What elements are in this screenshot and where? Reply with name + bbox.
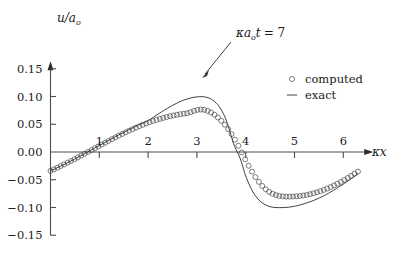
x-tick-label: 3 <box>193 134 200 148</box>
annotation-arrow-line <box>205 42 231 74</box>
legend: computed exact <box>287 72 363 102</box>
data-point-marker <box>161 115 166 120</box>
legend-label-exact: exact <box>305 88 337 102</box>
data-point-marker <box>174 112 179 117</box>
data-point-marker <box>222 122 227 127</box>
annotation-equals: = 7 <box>264 26 286 40</box>
y-tick-label: 0.15 <box>17 62 43 76</box>
y-tick-label: −0.05 <box>7 173 42 187</box>
data-point-marker <box>171 113 176 118</box>
data-point-marker <box>263 187 268 192</box>
annotation-group: κaot= 7 <box>202 26 285 78</box>
annotation-a: a <box>244 26 251 40</box>
data-point-marker <box>236 143 241 148</box>
data-point-marker <box>314 190 319 195</box>
data-point-marker <box>232 137 237 142</box>
x-tick-label: 6 <box>340 134 347 148</box>
data-point-marker <box>301 193 306 198</box>
legend-marker-computed-icon <box>289 76 294 81</box>
annotation-t: t <box>256 26 261 40</box>
x-axis-label-text: κx <box>371 145 387 159</box>
data-point-marker <box>150 119 155 124</box>
data-point-marker <box>256 179 261 184</box>
data-point-marker <box>168 114 173 119</box>
y-tick-label: 0.00 <box>17 145 43 159</box>
chart-figure: 0.150.100.050.00−0.05−0.10−0.15123456 u/… <box>0 0 413 270</box>
data-point-marker <box>226 127 231 132</box>
data-point-marker <box>154 117 159 122</box>
data-point-marker <box>246 163 251 168</box>
y-tick-label: −0.15 <box>7 228 42 242</box>
data-point-marker <box>202 107 207 112</box>
svg-text:u/ao: u/ao <box>57 11 81 27</box>
data-point-marker <box>191 108 196 113</box>
data-point-marker <box>157 116 162 121</box>
y-tick-label: 0.05 <box>17 117 43 131</box>
y-tick-label: 0.10 <box>17 90 43 104</box>
svg-text:κaot= 7: κaot= 7 <box>235 26 285 42</box>
data-point-marker <box>311 191 316 196</box>
data-point-marker <box>318 189 323 194</box>
data-point-marker <box>253 175 258 180</box>
data-point-marker <box>273 193 278 198</box>
y-axis-label-subscript: o <box>76 18 81 27</box>
data-point-marker <box>304 192 309 197</box>
data-point-marker <box>147 120 152 125</box>
annotation-arrow-head <box>202 70 209 78</box>
data-point-marker <box>250 169 255 174</box>
data-point-marker <box>164 115 169 120</box>
y-axis-label: u/ao <box>57 11 81 27</box>
x-tick-label: 2 <box>144 134 151 148</box>
series-computed <box>48 107 360 199</box>
data-point-marker <box>321 187 326 192</box>
legend-label-computed: computed <box>305 72 363 86</box>
y-tick-label: −0.10 <box>7 201 42 215</box>
chart-plot-area: 0.150.100.050.00−0.05−0.10−0.15123456 u/… <box>0 0 413 270</box>
data-point-marker <box>308 192 313 197</box>
data-point-marker <box>185 111 190 116</box>
annotation-kappa: κ <box>235 26 244 40</box>
y-axis-label-text: u/a <box>57 11 76 25</box>
x-tick-label: 1 <box>96 134 103 148</box>
x-tick-label: 4 <box>242 134 249 148</box>
x-axis-label: κx <box>371 145 387 159</box>
data-point-marker <box>188 110 193 115</box>
x-tick-label: 5 <box>291 134 298 148</box>
